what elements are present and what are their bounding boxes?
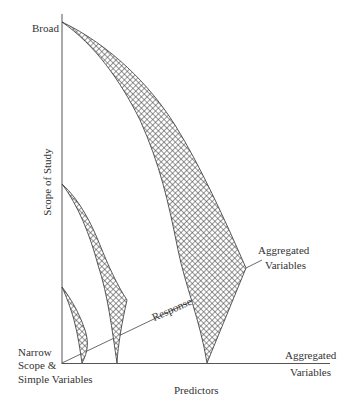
medium-scope-region xyxy=(62,184,127,363)
narrow-label-line2: Scope & xyxy=(18,359,56,372)
x-right-label-line2: Variables xyxy=(290,366,331,379)
x-right-label-line1: Aggregated xyxy=(285,349,336,362)
narrow-label-line1: Narrow xyxy=(18,346,52,359)
narrow-label-line3: Simple Variables xyxy=(18,373,93,386)
aggregated-annotation-line2: Variables xyxy=(265,259,306,272)
aggregated-annotation-line1: Aggregated xyxy=(258,244,309,257)
x-axis-label: Predictors xyxy=(174,384,219,397)
broad-label: Broad xyxy=(32,22,59,35)
small-scope-region xyxy=(62,287,87,363)
aggregated-leader-line xyxy=(246,260,262,268)
y-axis-label: Scope of Study xyxy=(41,138,53,226)
